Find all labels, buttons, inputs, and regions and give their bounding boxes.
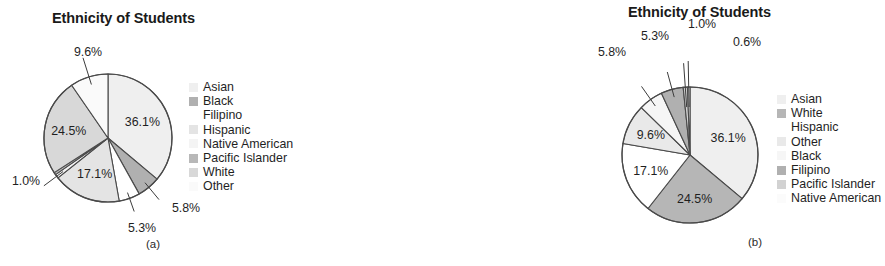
legend-item-label: Hispanic	[791, 120, 839, 134]
legend-item-label: White	[791, 106, 823, 120]
slice-value-label: 36.1%	[125, 115, 160, 129]
legend-item-label: White	[203, 165, 235, 179]
legend-swatch-icon	[189, 168, 198, 177]
legend-item: Hispanic	[777, 120, 881, 134]
legend-item-label: Hispanic	[203, 123, 251, 137]
legend-a: AsianBlackFilipinoHispanicNative America…	[189, 80, 293, 194]
figure-caption-b: (b)	[748, 236, 762, 248]
legend-item-label: Filipino	[791, 163, 830, 177]
legend-item: Black	[777, 149, 881, 163]
figure-a: Ethnicity of Students 36.1%5.8%5.3%17.1%…	[0, 0, 300, 266]
slice-value-label: 9.6%	[637, 128, 665, 142]
legend-swatch-icon	[189, 182, 198, 191]
legend-item: Asian	[777, 92, 881, 106]
slice-value-label: 1.0%	[688, 17, 716, 31]
figure-b: Ethnicity of Students 36.1%24.5%17.1%9.6…	[300, 0, 603, 266]
legend-swatch-icon	[189, 125, 198, 134]
legend-swatch-icon	[189, 111, 198, 120]
legend-item: Other	[189, 179, 293, 193]
legend-item-label: Asian	[791, 92, 822, 106]
slice-value-label: 17.1%	[77, 167, 112, 181]
legend-item: Filipino	[777, 163, 881, 177]
legend-swatch-icon	[777, 151, 786, 160]
legend-swatch-icon	[189, 139, 198, 148]
legend-swatch-icon	[777, 109, 786, 118]
slice-value-label: 9.6%	[74, 45, 102, 59]
legend-item: Native American	[189, 137, 293, 151]
legend-item: Hispanic	[189, 123, 293, 137]
legend-item: White	[777, 106, 881, 120]
slice-value-label: 5.3%	[641, 29, 669, 43]
slice-value-label: 24.5%	[51, 124, 86, 138]
legend-item: Native American	[777, 191, 881, 205]
legend-swatch-icon	[189, 97, 198, 106]
legend-swatch-icon	[777, 194, 786, 203]
legend-item-label: Pacific Islander	[203, 151, 287, 165]
legend-item-label: Asian	[203, 80, 234, 94]
slice-value-label: 5.8%	[172, 201, 200, 215]
legend-item-label: Pacific Islander	[791, 177, 875, 191]
legend-swatch-icon	[777, 180, 786, 189]
legend-swatch-icon	[777, 95, 786, 104]
legend-swatch-icon	[777, 137, 786, 146]
legend-item-label: Black	[791, 149, 821, 163]
legend-swatch-icon	[777, 166, 786, 175]
legend-item-label: Filipino	[203, 108, 242, 122]
legend-swatch-icon	[189, 83, 198, 92]
legend-item: Asian	[189, 80, 293, 94]
slice-value-label: 17.1%	[633, 164, 668, 178]
legend-item: Pacific Islander	[189, 151, 293, 165]
slice-value-label: 5.8%	[598, 45, 626, 59]
slice-value-label: 24.5%	[677, 192, 712, 206]
legend-item-label: Native American	[203, 137, 293, 151]
slice-value-label: 5.3%	[128, 221, 156, 235]
legend-swatch-icon	[189, 154, 198, 163]
slice-value-label: 1.0%	[12, 174, 40, 188]
legend-item-label: Other	[791, 135, 822, 149]
legend-b: AsianWhiteHispanicOtherBlackFilipinoPaci…	[777, 92, 881, 206]
slice-value-label: 0.6%	[733, 35, 761, 49]
legend-item: Black	[189, 94, 293, 108]
legend-item-label: Native American	[791, 191, 881, 205]
legend-item: Pacific Islander	[777, 177, 881, 191]
legend-item: White	[189, 165, 293, 179]
legend-item-label: Other	[203, 179, 234, 193]
slice-value-label: 36.1%	[711, 131, 746, 145]
legend-item: Other	[777, 135, 881, 149]
legend-swatch-icon	[777, 123, 786, 132]
legend-item-label: Black	[203, 94, 233, 108]
legend-item: Filipino	[189, 108, 293, 122]
figure-caption-a: (a)	[146, 238, 160, 250]
